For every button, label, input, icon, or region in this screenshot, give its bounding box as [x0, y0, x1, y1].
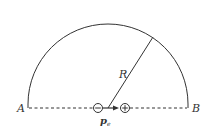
radius-label: R — [118, 68, 127, 81]
dipole-moment-label: p — [100, 115, 107, 126]
arrowhead-icon — [113, 106, 119, 111]
point-a-label: A — [16, 102, 25, 115]
point-b-label: B — [191, 102, 200, 115]
positive-charge — [121, 104, 130, 113]
dipole-semicircle-diagram: A B R p e — [0, 0, 210, 134]
negative-charge — [94, 104, 103, 113]
radius-line — [108, 37, 153, 108]
semicircle-arc — [28, 24, 188, 108]
dipole-moment-subscript: e — [107, 120, 111, 127]
